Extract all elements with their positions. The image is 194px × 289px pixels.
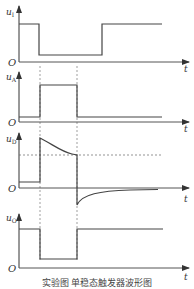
figure-caption: 实验图 单稳态触发器波形图 bbox=[0, 276, 194, 289]
label-u-o: uO bbox=[6, 213, 17, 224]
panel-u-i: uI O t bbox=[6, 6, 189, 74]
origin-label: O bbox=[8, 117, 16, 128]
label-u-i: uI bbox=[6, 7, 15, 18]
waveform-u-o bbox=[19, 229, 163, 259]
origin-label: O bbox=[8, 57, 16, 68]
panel-u-a: uA O t bbox=[6, 72, 189, 134]
origin-label: O bbox=[8, 183, 16, 194]
label-u-d: uD bbox=[6, 134, 17, 145]
waveform-u-a bbox=[19, 85, 162, 117]
panel-u-d: uD O t bbox=[6, 133, 189, 205]
t-label: t bbox=[184, 124, 188, 134]
label-u-a: uA bbox=[6, 72, 17, 83]
origin-label: O bbox=[8, 263, 16, 274]
t-label: t bbox=[184, 64, 188, 74]
waveform-u-i bbox=[19, 24, 162, 55]
panel-u-o: uO O t bbox=[6, 213, 189, 282]
t-label: t bbox=[184, 194, 188, 204]
